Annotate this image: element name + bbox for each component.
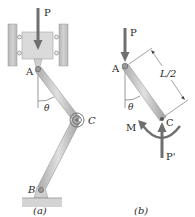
label-b: B	[27, 184, 35, 195]
caption-a: (a)	[33, 205, 47, 216]
angle-arc	[38, 97, 54, 101]
extension-line	[129, 48, 152, 64]
label-length: L/2	[159, 68, 176, 79]
pin-c-icon	[75, 118, 79, 122]
figure-b: P θ A L/2 C M P' (b)	[111, 27, 188, 216]
pin-b-icon	[38, 187, 43, 192]
roller-icon	[55, 51, 59, 55]
roller-icon	[55, 35, 59, 39]
label-theta: θ	[44, 103, 50, 113]
dimension-arrow-icon	[151, 50, 155, 54]
label-p-top: P	[130, 27, 137, 38]
clevis	[34, 59, 42, 67]
figure-a: P θ A C B (a)	[8, 7, 96, 216]
roller-icon	[18, 51, 22, 55]
extension-line	[165, 100, 188, 116]
left-wall-guide	[8, 24, 17, 66]
label-a: A	[25, 66, 34, 77]
pin-a-icon	[122, 63, 128, 69]
label-c: C	[166, 117, 174, 128]
buckling-diagram: P θ A C B (a) P θ	[0, 0, 195, 217]
roller-icon	[18, 35, 22, 39]
caption-b: (b)	[134, 205, 148, 216]
label-theta: θ	[128, 102, 134, 112]
label-p: P	[44, 7, 51, 18]
dimension-arrow-icon	[181, 96, 185, 100]
pin-c-icon	[160, 117, 164, 121]
angle-arc	[125, 96, 140, 100]
lower-member	[37, 118, 80, 192]
label-p-prime: P'	[166, 151, 175, 162]
right-wall-guide	[59, 24, 68, 66]
label-m: M	[126, 122, 136, 133]
pin-a-icon	[35, 66, 40, 71]
label-c: C	[88, 115, 96, 126]
label-a: A	[111, 63, 120, 74]
arrowhead-icon	[121, 52, 130, 62]
